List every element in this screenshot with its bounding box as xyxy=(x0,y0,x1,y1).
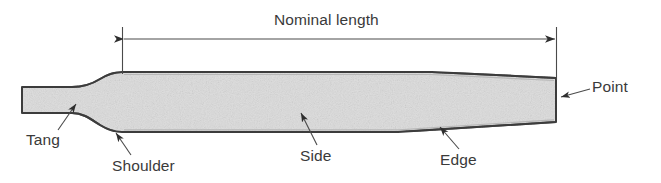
leader-line-edge xyxy=(440,127,459,149)
callout-label-shoulder: Shoulder xyxy=(112,157,175,175)
callout-label-edge: Edge xyxy=(440,151,477,169)
callout-label-tang: Tang xyxy=(26,131,60,149)
dimension-label-nominal-length: Nominal length xyxy=(274,11,379,29)
file-silhouette xyxy=(22,72,556,132)
file-body-group xyxy=(22,72,556,132)
callout-label-side: Side xyxy=(300,147,331,165)
callout-label-point: Point xyxy=(592,78,628,96)
leader-line-point xyxy=(561,89,590,97)
file-anatomy-diagram: Nominal length Tang Shoulder Side Edge P… xyxy=(0,0,661,183)
leader-line-shoulder xyxy=(116,133,131,155)
